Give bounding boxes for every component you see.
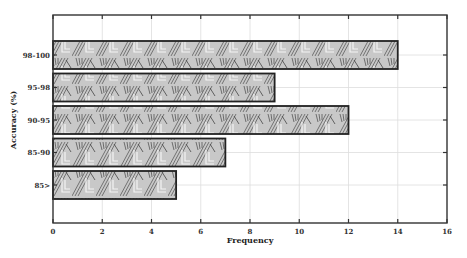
bar-85-90 [53, 139, 225, 167]
bar-90-95 [53, 106, 349, 134]
x-tick-label: 0 [51, 227, 56, 236]
y-tick-label: 98-100 [23, 51, 50, 60]
bars [53, 41, 398, 199]
x-tick-label: 10 [294, 227, 304, 236]
y-tick-label: 85-90 [28, 148, 51, 157]
bar-85> [53, 171, 176, 199]
y-tick-label: 85> [34, 181, 50, 190]
y-axis-label: Accuracy (%) [8, 90, 18, 150]
x-tick-label: 6 [198, 227, 203, 236]
x-tick-label: 12 [344, 227, 354, 236]
x-tick-label: 16 [442, 227, 452, 236]
x-tick-label: 4 [149, 227, 154, 236]
y-tick-label: 95-98 [28, 83, 51, 92]
x-tick-label: 2 [100, 227, 105, 236]
bar-98-100 [53, 41, 398, 69]
x-axis-label: Frequency [227, 235, 274, 245]
x-tick-label: 14 [393, 227, 403, 236]
y-tick-label: 90-95 [28, 116, 51, 125]
bar-chart: 0246810121416 98-10095-9890-9585-9085> F… [0, 0, 467, 258]
bar-95-98 [53, 74, 275, 102]
